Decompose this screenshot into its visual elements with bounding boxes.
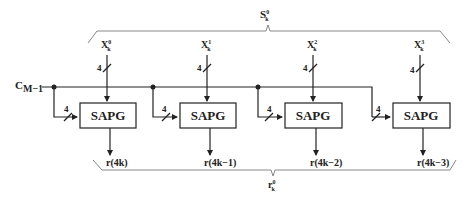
block-3-output: r(4k−2) [310,157,342,169]
sapg-block-3: X2k 4 SAPG r(4k−2) [285,39,342,169]
block-1-input-label: X0k [101,39,111,52]
block-4-input-label: X3k [414,39,424,52]
ctrl-width-label-4: 4 [376,104,381,114]
block-2-input-width: 4 [197,63,202,73]
block-4-label: SAPG [404,108,439,123]
block-2-label: SAPG [191,108,226,123]
top-brace-label: S0k [260,8,269,22]
block-3-input-width: 4 [303,63,308,73]
block-4-output: r(4k−3) [417,157,449,169]
control-input-label: CM−1 [15,79,43,94]
sapg-block-1: X0k 4 SAPG r(4k) [80,39,136,169]
block-2-input-label: X1k [201,39,211,52]
bottom-brace [93,160,456,176]
block-1-output: r(4k) [106,157,128,169]
block-1-label: SAPG [91,108,126,123]
block-3-label: SAPG [296,108,331,123]
bottom-brace-label: r0k [268,179,275,192]
ctrl-width-label-1: 4 [64,104,69,114]
block-4-input-width: 4 [410,65,415,75]
block-3-input-label: X2k [307,39,317,52]
sapg-block-4: X3k 4 SAPG r(4k−3) [393,39,450,169]
sapg-block-diagram: S0k CM−1 4 4 4 4 X0k 4 SAPG r(4k) X1k 4 … [0,0,470,205]
top-brace [88,25,450,43]
block-2-output: r(4k−1) [204,157,236,169]
sapg-block-2: X1k 4 SAPG r(4k−1) [180,39,236,169]
block-1-input-width: 4 [97,63,102,73]
ctrl-width-label-3: 4 [267,104,272,114]
ctrl-width-label-2: 4 [162,104,167,114]
